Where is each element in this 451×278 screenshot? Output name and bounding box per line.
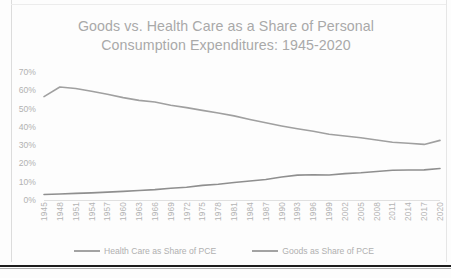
x-axis-tick-label: 1963: [135, 202, 144, 221]
legend-line-icon: [252, 250, 278, 252]
legend-line-icon: [74, 250, 100, 252]
x-axis-tick-label: 1969: [167, 202, 176, 221]
chart-page: Goods vs. Health Care as a Share of Pers…: [0, 0, 451, 278]
y-axis-tick-label: 60%: [19, 85, 36, 95]
x-axis-tick-label: 1993: [293, 202, 302, 221]
y-axis-tick-label: 20%: [19, 158, 36, 168]
x-axis-tick-label: 1978: [214, 202, 223, 221]
plot-area: [44, 72, 440, 200]
x-axis-tick-label: 1945: [40, 202, 49, 221]
x-axis-tick-label: 1981: [230, 202, 239, 221]
scan-edge-bottom: [0, 265, 451, 267]
legend-item-health-care: Health Care as Share of PCE: [74, 246, 216, 256]
series-line: [44, 87, 440, 144]
x-axis-tick-label: 2020: [436, 202, 445, 221]
y-axis-labels: 70%60%50%40%30%20%10%0%: [0, 64, 40, 212]
x-axis-tick-label: 1975: [198, 202, 207, 221]
x-axis-tick-label: 2005: [357, 202, 366, 221]
x-axis-tick-label: 1987: [262, 202, 271, 221]
x-axis-labels: 1945194819511954195719601963196619691972…: [44, 202, 444, 242]
y-axis-tick-label: 70%: [19, 67, 36, 77]
x-axis-tick-label: 2002: [341, 202, 350, 221]
y-axis-tick-label: 50%: [19, 104, 36, 114]
x-axis-tick-label: 1960: [119, 202, 128, 221]
x-axis-tick-label: 1948: [56, 202, 65, 221]
chart-title: Goods vs. Health Care as a Share of Pers…: [36, 17, 416, 55]
y-axis-tick-label: 30%: [19, 140, 36, 150]
legend-label: Goods as Share of PCE: [282, 246, 374, 256]
series-lines: [44, 72, 440, 200]
x-axis-tick-label: 2014: [404, 202, 413, 221]
x-axis-tick-label: 2011: [388, 202, 397, 220]
x-axis-tick-label: 1954: [88, 202, 97, 221]
scan-edge-top: [11, 4, 447, 5]
series-line: [44, 169, 440, 195]
x-axis-tick-label: 1972: [183, 202, 192, 221]
x-axis-tick-label: 1966: [151, 202, 160, 221]
x-axis-tick-label: 1999: [325, 202, 334, 221]
x-axis-tick-label: 1990: [278, 202, 287, 221]
y-axis-tick-label: 40%: [19, 122, 36, 132]
legend-label: Health Care as Share of PCE: [104, 246, 216, 256]
x-axis-tick-label: 1984: [246, 202, 255, 221]
x-axis-tick-label: 1957: [103, 202, 112, 221]
x-axis-line: [44, 200, 440, 201]
scan-edge-bottom-shadow: [0, 268, 451, 269]
x-axis-tick-label: 2008: [373, 202, 382, 221]
legend-item-goods: Goods as Share of PCE: [252, 246, 374, 256]
x-axis-tick-label: 2017: [420, 202, 429, 221]
scan-edge-right: [446, 0, 447, 262]
x-axis-tick-label: 1996: [309, 202, 318, 221]
y-axis-tick-label: 10%: [19, 177, 36, 187]
y-axis-tick-label: 0%: [24, 195, 36, 205]
x-axis-tick-label: 1951: [72, 202, 81, 221]
chart-legend: Health Care as Share of PCE Goods as Sha…: [44, 243, 404, 259]
